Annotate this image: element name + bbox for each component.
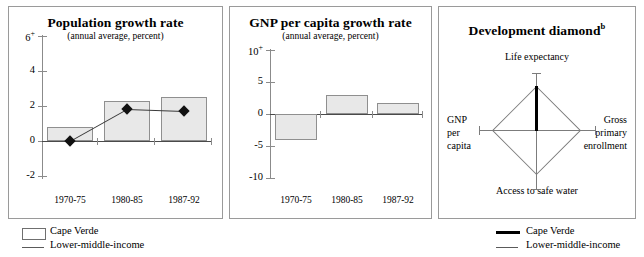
diamond-axis-label-left-line3: capita (447, 139, 471, 152)
x-tick-gnp-3 (422, 111, 423, 118)
diamond-axis-label-left-line1: GNP (447, 113, 467, 126)
y-tick-label-pop-4: 4 (9, 64, 35, 75)
diamond-cap-top (532, 73, 541, 74)
y-tick-gnp-neg5 (266, 146, 275, 147)
legend-left-row-lower-middle-income: Lower-middle-income (22, 240, 212, 254)
diamond-axis-label-right-line2: primary (595, 126, 627, 139)
panel-subtitle-gnp: (annual average, percent) (230, 31, 431, 41)
panel-gnp-growth: GNP per capita growth rate (annual avera… (229, 6, 432, 219)
panel-title-population: Population growth rate (9, 15, 222, 31)
diamond-axis-label-right-line3: enrollment (584, 139, 627, 152)
y-tick-pop-2 (38, 106, 47, 107)
x-label-pop-3: 1987-92 (151, 195, 217, 205)
y-tick-label-gnp-10: 10+ (234, 43, 263, 57)
diamond-cap-left (479, 126, 480, 135)
y-tick-pop-6 (38, 36, 47, 37)
y-tick-pop-4 (38, 71, 47, 72)
y-tick-label-pop-0: 0 (9, 134, 35, 145)
bar-gnp-1987-92 (377, 103, 419, 114)
legend-right-row-lower-middle-income: Lower-middle-income (496, 240, 644, 254)
x-label-gnp-3: 1987-92 (365, 195, 431, 205)
legend-right: Cape Verde Lower-middle-income (496, 226, 644, 254)
y-tick-label-gnp-0: 0 (234, 107, 263, 118)
y-tick-label-gnp-neg5: -5 (234, 139, 263, 150)
panel-title-gnp: GNP per capita growth rate (230, 15, 431, 31)
x-tick-pop-3 (211, 138, 212, 145)
bar-gnp-1980-85 (326, 95, 368, 114)
y-tick-gnp-5 (266, 82, 275, 83)
legend-right-row-cape-verde: Cape Verde (496, 226, 644, 240)
legend-swatch-thick-line-icon (496, 231, 520, 234)
x-tick-gnp-1 (320, 111, 321, 118)
title-superscript-b: b (601, 21, 606, 31)
diamond-cap-right (595, 126, 596, 135)
y-tick-pop-neg2 (38, 176, 47, 177)
diamond-axis-label-bottom: Access to safe water (439, 185, 635, 196)
diamond-axis-label-right-line1: Gross (604, 113, 627, 126)
diamond-axis-label-top: Life expectancy (439, 51, 635, 62)
x-tick-pop-2 (154, 138, 155, 145)
panel-development-diamond: Development diamondb Life expectancy GNP… (438, 6, 636, 219)
legend-left-label-lower-middle-income: Lower-middle-income (50, 239, 144, 250)
y-axis-population (42, 35, 43, 179)
x-tick-gnp-2 (372, 111, 373, 118)
panel-title-diamond: Development diamondb (439, 21, 635, 39)
y-tick-gnp-10 (266, 50, 275, 51)
y-tick-label-gnp-neg10: -10 (230, 171, 263, 182)
y-tick-label-pop-neg2: -2 (9, 169, 35, 180)
diamond-cap-bottom (532, 189, 541, 190)
bar-gnp-1970-75 (275, 114, 317, 140)
legend-left-label-cape-verde: Cape Verde (50, 225, 99, 236)
y-tick-label-pop-6: 6+ (9, 29, 35, 43)
bar-population-1987-92 (161, 97, 207, 141)
legend-right-label-lower-middle-income: Lower-middle-income (526, 239, 620, 250)
legend-swatch-line-icon (22, 247, 44, 248)
figure-sheet: Population growth rate (annual average, … (0, 0, 644, 257)
panel-population-growth: Population growth rate (annual average, … (8, 6, 223, 219)
legend-left: Cape Verde Lower-middle-income (22, 226, 212, 254)
legend-swatch-box-icon (22, 228, 46, 240)
y-tick-label-pop-2: 2 (9, 99, 35, 110)
legend-swatch-line-icon-2 (496, 247, 518, 248)
diamond-series-cape-verde (535, 86, 538, 131)
diamond-axis-label-left-line2: per (447, 126, 460, 139)
x-tick-pop-1 (97, 138, 98, 145)
y-tick-label-gnp-5: 5 (234, 75, 263, 86)
y-tick-gnp-neg10 (266, 178, 275, 179)
legend-right-label-cape-verde: Cape Verde (526, 225, 575, 236)
legend-left-row-cape-verde: Cape Verde (22, 226, 212, 240)
